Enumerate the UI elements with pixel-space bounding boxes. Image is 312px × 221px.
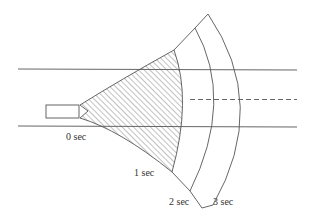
isochrone-2sec bbox=[190, 28, 214, 191]
label-3sec: 3 sec bbox=[213, 196, 234, 207]
isochrone-3sec bbox=[208, 14, 240, 205]
nozzle bbox=[46, 105, 79, 118]
hatched-region-1sec bbox=[80, 50, 183, 172]
label-0sec: 0 sec bbox=[66, 131, 87, 142]
outer-bottom-join bbox=[202, 205, 213, 208]
spray-diagram: 0 sec 1 sec 2 sec 3 sec bbox=[0, 0, 312, 221]
label-2sec: 2 sec bbox=[169, 196, 190, 207]
label-1sec: 1 sec bbox=[134, 167, 155, 178]
